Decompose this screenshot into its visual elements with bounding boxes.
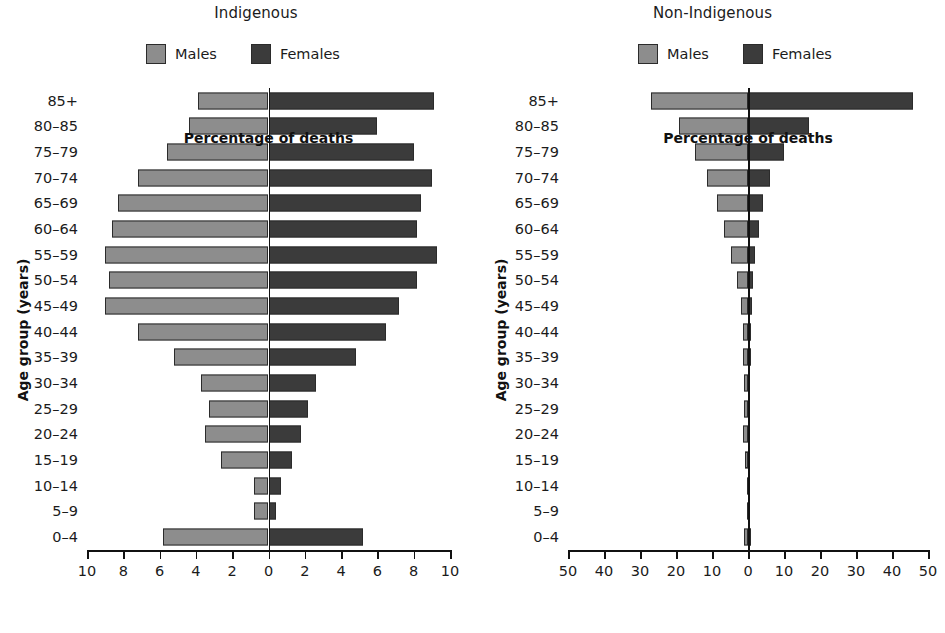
x-axis-tick: [568, 550, 570, 559]
bar-male: [201, 375, 268, 392]
x-axis-tick: [928, 550, 930, 559]
x-axis-tick: [196, 550, 198, 559]
y-axis-tick-label: 25–29: [34, 401, 78, 417]
x-axis-tick-label: 2: [300, 563, 309, 579]
x-axis-tick-label: 8: [119, 563, 128, 579]
y-axis-tick-label: 15–19: [34, 452, 78, 468]
legend-entry-males: Males: [638, 44, 709, 64]
x-axis-tick: [892, 550, 894, 559]
x-axis-tick-label: 50: [559, 563, 577, 579]
y-axis-tick-label: 30–34: [515, 375, 559, 391]
bar-male: [209, 400, 269, 417]
x-axis-tick: [450, 550, 452, 559]
y-axis-tick-label: 35–39: [515, 349, 559, 365]
chart-panel-indigenous: Indigenous Males Females Age group (year…: [0, 0, 470, 633]
x-axis-title-left: Percentage of deaths: [87, 130, 450, 146]
bar-female: [269, 477, 282, 494]
bar-male: [724, 221, 748, 238]
x-axis-right: 504030201001020304050: [568, 550, 928, 551]
chart-title-left: Indigenous: [0, 4, 470, 22]
bar-female: [748, 221, 759, 238]
bar-male: [205, 426, 269, 443]
x-axis-tick: [820, 550, 822, 559]
y-axis-tick-label: 10–14: [515, 478, 559, 494]
y-axis-tick-label: 65–69: [515, 195, 559, 211]
x-axis-tick-label: 4: [191, 563, 200, 579]
bar-female: [269, 169, 432, 186]
x-axis-tick-label: 0: [743, 563, 752, 579]
legend-label-males: Males: [667, 46, 709, 62]
bar-male: [163, 529, 268, 546]
bar-female: [269, 246, 438, 263]
x-axis-tick-label: 30: [631, 563, 649, 579]
y-axis-tick-label: 20–24: [515, 426, 559, 442]
bar-male: [112, 221, 268, 238]
bar-male: [105, 298, 268, 315]
zero-line-right: [748, 88, 750, 550]
y-axis-tick-label: 55–59: [34, 247, 78, 263]
legend-swatch-males-icon: [638, 44, 658, 64]
x-axis-tick: [676, 550, 678, 559]
bar-female: [748, 169, 770, 186]
bar-male: [118, 195, 269, 212]
y-axis-tick-label: 5–9: [52, 503, 78, 519]
bar-male: [138, 323, 269, 340]
bar-female: [269, 323, 387, 340]
x-axis-tick-label: 10: [441, 563, 459, 579]
bar-female: [748, 195, 763, 212]
zero-line-left: [269, 88, 271, 550]
bar-female: [269, 298, 400, 315]
y-axis-tick-label: 0–4: [533, 529, 559, 545]
chart-title-right: Non-Indigenous: [470, 4, 945, 22]
bar-male: [174, 349, 268, 366]
bar-male: [254, 503, 269, 520]
y-axis-tick-label: 85+: [528, 93, 559, 109]
x-axis-tick: [414, 550, 416, 559]
bar-male: [254, 477, 269, 494]
y-axis-tick-label: 25–29: [515, 401, 559, 417]
x-axis-tick: [341, 550, 343, 559]
y-axis-tick-label: 60–64: [515, 221, 559, 237]
y-axis-tick-label: 40–44: [34, 324, 78, 340]
y-axis-tick-label: 5–9: [533, 503, 559, 519]
y-axis-tick-label: 45–49: [515, 298, 559, 314]
x-axis-title-right: Percentage of deaths: [568, 130, 928, 146]
x-axis-tick: [604, 550, 606, 559]
y-axis-tick-label: 75–79: [515, 144, 559, 160]
bar-male: [198, 92, 269, 109]
bar-female: [269, 529, 363, 546]
y-axis-tick-label: 20–24: [34, 426, 78, 442]
x-axis-tick-label: 6: [373, 563, 382, 579]
legend-label-females: Females: [280, 46, 340, 62]
y-axis-title-right: Age group (years): [493, 259, 509, 402]
legend-swatch-females-icon: [743, 44, 763, 64]
y-axis-tick-label: 70–74: [515, 170, 559, 186]
x-axis-tick-label: 40: [595, 563, 613, 579]
y-axis-tick-label: 80–85: [515, 118, 559, 134]
bar-female: [269, 452, 293, 469]
x-axis-tick-label: 10: [775, 563, 793, 579]
plot-area-left: 85+80–8575–7970–7465–6960–6455–5950–5445…: [87, 88, 450, 550]
x-axis-tick-label: 20: [811, 563, 829, 579]
y-axis-tick-label: 35–39: [34, 349, 78, 365]
x-axis-tick-label: 4: [336, 563, 345, 579]
x-axis-tick: [712, 550, 714, 559]
x-axis-tick-label: 20: [667, 563, 685, 579]
x-axis-tick: [232, 550, 234, 559]
bar-male: [221, 452, 268, 469]
bar-male: [651, 92, 748, 109]
x-axis-tick-label: 50: [919, 563, 937, 579]
bar-female: [748, 144, 784, 161]
bar-male: [731, 246, 748, 263]
y-axis-tick-label: 45–49: [34, 298, 78, 314]
bar-female: [269, 195, 421, 212]
x-axis-tick: [856, 550, 858, 559]
x-axis-tick-label: 10: [703, 563, 721, 579]
x-axis-tick-label: 2: [228, 563, 237, 579]
x-axis-tick: [305, 550, 307, 559]
x-axis-tick: [640, 550, 642, 559]
bar-female: [269, 272, 418, 289]
x-axis-tick: [160, 550, 162, 559]
bar-female: [269, 221, 418, 238]
bar-male: [717, 195, 748, 212]
